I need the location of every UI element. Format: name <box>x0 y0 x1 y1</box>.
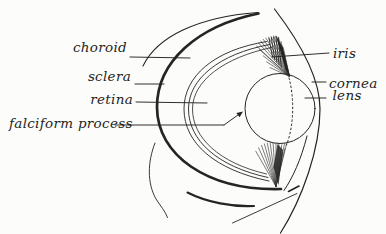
lens-circle <box>245 74 315 144</box>
eyelid-fold-line <box>233 194 298 224</box>
falciform-arrowhead <box>236 112 243 118</box>
label-iris: iris <box>333 45 356 61</box>
pupil-margin-dashed <box>287 78 293 145</box>
iris-lower-hatching <box>256 142 287 187</box>
eyeball-outline <box>143 13 281 218</box>
retina-arc-2 <box>189 45 270 178</box>
label-falciform-process: falciform process <box>8 115 133 131</box>
optic-nerve-arc <box>188 193 255 207</box>
falciform-arrow-shaft <box>224 114 240 126</box>
choroid-pointer-line <box>130 57 190 58</box>
retina-pointer-line <box>136 102 207 103</box>
eye-diagram: choroid sclera retina falciform process … <box>0 0 386 234</box>
label-retina: retina <box>90 91 133 107</box>
eye-diagram-svg: choroid sclera retina falciform process … <box>0 0 386 234</box>
lower-left-tissue-curve <box>149 143 167 218</box>
label-lens: lens <box>333 87 362 103</box>
cornea-inner-curve <box>284 136 307 191</box>
retina-arc-1 <box>184 42 269 182</box>
label-pointer-lines <box>115 53 329 125</box>
eyelid-fold-dash <box>289 186 300 192</box>
label-choroid: choroid <box>73 39 127 55</box>
retina-arc-3 <box>193 48 272 175</box>
label-sclera: sclera <box>88 68 131 84</box>
